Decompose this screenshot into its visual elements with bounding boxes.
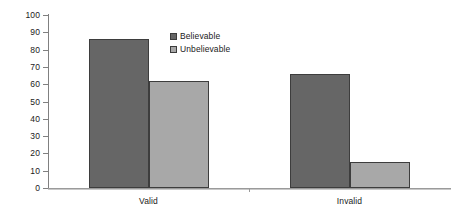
value-axis-tick-label: 70	[0, 63, 40, 72]
legend-item-unbelievable: Unbelievable	[170, 43, 230, 56]
bar-valid-unbelievable	[149, 81, 209, 188]
value-axis-tick-label: 80	[0, 46, 40, 55]
bar-invalid-unbelievable	[350, 162, 410, 188]
legend-swatch-icon	[170, 46, 177, 53]
legend-label: Believable	[180, 32, 220, 41]
value-axis-tick-label: 10	[0, 167, 40, 176]
value-axis-tick-label: 50	[0, 98, 40, 107]
value-axis-tick-label: 0	[0, 184, 40, 193]
category-label-valid: Valid	[48, 196, 249, 206]
value-axis-tick-label: 20	[0, 149, 40, 158]
category-label-invalid: Invalid	[249, 196, 450, 206]
category-axis-tick	[249, 188, 250, 192]
value-axis-tick	[43, 188, 48, 189]
value-axis-tick-label: 90	[0, 28, 40, 37]
bar-invalid-believable	[290, 74, 350, 188]
value-axis-tick-label: 100	[0, 11, 40, 20]
bar-chart: 0102030405060708090100 ValidInvalid Beli…	[0, 0, 466, 220]
legend-item-believable: Believable	[170, 30, 230, 43]
chart-legend: BelievableUnbelievable	[170, 30, 230, 56]
legend-label: Unbelievable	[180, 45, 230, 54]
legend-swatch-icon	[170, 33, 177, 40]
value-axis-tick-label: 40	[0, 115, 40, 124]
value-axis-tick-label: 30	[0, 132, 40, 141]
bar-valid-believable	[89, 39, 149, 188]
value-axis-tick-label: 60	[0, 80, 40, 89]
